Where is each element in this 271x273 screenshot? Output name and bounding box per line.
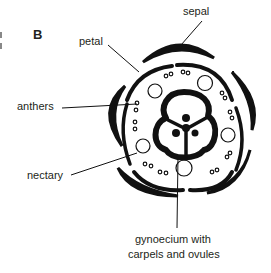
nectary-leader [71,153,137,175]
gynoecium-leader [177,156,178,228]
anther [164,74,168,78]
nectary-left [136,139,150,153]
anther [181,70,185,74]
petal-arc-right [236,108,242,170]
petal-leader [108,45,139,72]
anther [230,116,234,120]
ovule [172,129,180,137]
anther [215,168,219,172]
anther [134,108,138,112]
ovule [182,114,190,122]
anther [149,164,153,168]
nectary-right [221,128,235,142]
gynoecium-septum-left [168,120,184,128]
anther [223,96,227,100]
nectary-top-right [198,76,213,91]
anther [133,127,137,131]
sepal-leader [181,21,202,45]
gynoecium-septum-right [188,118,206,128]
anther [210,170,214,174]
anther [164,171,168,175]
anther [225,155,229,159]
nectary-top-left [148,84,162,98]
sepal-top [143,45,214,62]
anther [143,162,147,166]
anther [158,170,162,174]
anther [228,151,232,155]
anther [169,72,173,76]
petal-arc-left [123,104,130,164]
anther [186,71,190,75]
anther [133,120,137,124]
sepal-right [232,72,255,130]
ovule-center [182,124,190,132]
anther [228,110,232,114]
ovule [192,130,199,137]
anther [220,91,224,95]
floral-diagram [0,0,271,273]
